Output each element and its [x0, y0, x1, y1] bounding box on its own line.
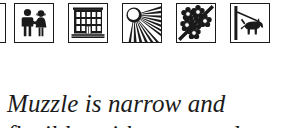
building-icon: [69, 4, 107, 42]
children-icon: [15, 4, 53, 42]
pictogram-no-flowers: [176, 3, 216, 43]
sun-rays-icon: [123, 4, 161, 42]
partial-pictogram-glyph: [0, 4, 5, 42]
pictogram-children-holding-hands: [14, 3, 54, 43]
document-page: Muzzle is narrow and flexible, with a ta…: [0, 0, 282, 131]
no-flowers-icon: [177, 4, 215, 42]
pictogram-strip: [0, 3, 282, 45]
caption-line-2: flexible, with a tapered: [7, 119, 282, 128]
partial-pictogram-cut-off: [0, 3, 6, 43]
caption-line-1: Muzzle is narrow and: [7, 88, 282, 119]
dog-on-leash-icon: [231, 4, 269, 42]
caption-block: Muzzle is narrow and flexible, with a ta…: [7, 88, 282, 128]
pictogram-dog-on-leash: [230, 3, 270, 43]
pictogram-building: [68, 3, 108, 43]
pictogram-sun-rays: [122, 3, 162, 43]
